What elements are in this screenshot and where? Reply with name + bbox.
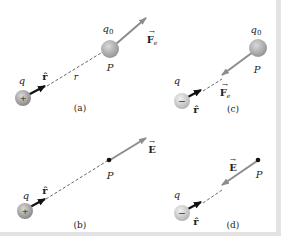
test-charge xyxy=(249,39,267,57)
distance-dashed-line xyxy=(203,190,222,203)
minus-sign: − xyxy=(178,96,186,106)
right-border xyxy=(276,0,281,236)
source-charge-label: q xyxy=(23,190,29,201)
panel-a: + q r̂ r q0 P Fe → (a) xyxy=(15,18,158,113)
source-charge-label: q xyxy=(174,75,180,86)
panel-caption: (d) xyxy=(227,220,240,230)
point-label: P xyxy=(106,170,114,181)
minus-sign: − xyxy=(178,208,186,218)
force-vector-arrow xyxy=(222,52,253,75)
panel-d: − q r̂ P E → (d) xyxy=(174,156,263,230)
point-label: P xyxy=(253,64,261,75)
vector-arrow-accent: → xyxy=(230,156,236,164)
field-point-dot xyxy=(256,158,261,163)
field-vector-arrow xyxy=(110,138,146,160)
unit-vector-label: r̂ xyxy=(193,216,199,227)
panel-caption: (c) xyxy=(227,104,239,114)
plus-sign: + xyxy=(20,94,27,103)
field-point-dot xyxy=(107,158,112,163)
point-label: P xyxy=(106,62,114,73)
panel-caption: (b) xyxy=(74,220,87,230)
unit-vector-label: r̂ xyxy=(42,71,48,82)
panel-c: − q r̂ q0 P Fe → (c) xyxy=(174,24,267,115)
unit-vector-label: r̂ xyxy=(193,104,199,115)
test-charge xyxy=(101,40,119,58)
vector-arrow-accent: → xyxy=(149,28,155,36)
distance-label: r xyxy=(74,72,79,82)
unit-vector-arrow xyxy=(30,199,45,207)
vector-arrow-accent: → xyxy=(222,81,228,89)
point-label: P xyxy=(255,169,263,180)
force-vector-arrow xyxy=(116,18,146,44)
distance-dashed-line xyxy=(46,161,107,199)
bottom-border xyxy=(0,232,281,236)
test-charge-label: q0 xyxy=(251,24,262,37)
plus-sign: + xyxy=(22,207,29,216)
unit-vector-label: r̂ xyxy=(42,185,48,196)
test-charge-label: q0 xyxy=(103,23,114,36)
source-charge-label: q xyxy=(19,75,25,86)
electric-field-figure: + q r̂ r q0 P Fe → (a) + q r̂ P E → (b) … xyxy=(0,0,281,236)
vector-arrow-accent: → xyxy=(149,138,155,146)
figure-canvas: + q r̂ r q0 P Fe → (a) + q r̂ P E → (b) … xyxy=(0,0,281,236)
panel-caption: (a) xyxy=(74,103,86,113)
panel-b: + q r̂ P E → (b) xyxy=(17,138,156,230)
source-charge-label: q xyxy=(174,189,180,200)
unit-vector-arrow xyxy=(28,86,45,95)
field-vector-arrow xyxy=(222,161,257,185)
